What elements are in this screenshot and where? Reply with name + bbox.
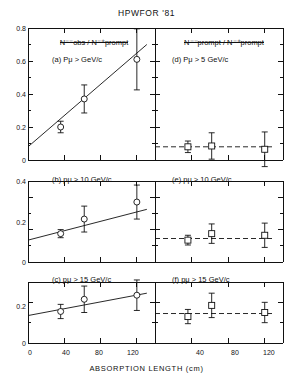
ratio-right-text: N⁻⁻prompt / N⁻⁺prompt <box>184 42 264 43</box>
xtick-right-40: 40 <box>196 349 204 356</box>
ratio-label-left: N⁻⁻obs / N⁻⁺prompt <box>44 38 144 47</box>
xtick-right-120: 120 <box>263 349 275 356</box>
x-axis-label: ABSORPTION LENGTH (cm) <box>0 364 293 373</box>
ytick-a-0.8: 0.8 <box>2 25 26 32</box>
ytick-a-0: 0 <box>2 157 26 164</box>
panel-label-a: (a) Pμ > GeV/c <box>52 55 102 64</box>
panel-label-e: (e) pμ > 10 GeV/c <box>172 175 232 184</box>
ratio-left-text: N⁻⁻obs / N⁻⁺prompt <box>60 42 129 43</box>
ytick-c-0.2: 0.2 <box>2 303 26 310</box>
xtick-left-120: 120 <box>127 349 139 356</box>
panel-label-d: (d) Pμ > 5 GeV/c <box>172 55 228 64</box>
ytick-b-0.4: 0.4 <box>2 178 26 185</box>
panel-label-c: (c) pμ > 15 GeV/c <box>52 275 111 284</box>
ytick-b-0.2: 0.2 <box>2 219 26 226</box>
ratio-label-right: N⁻⁻prompt / N⁻⁺prompt <box>168 38 280 47</box>
panel-label-f: (f) pμ > 15 GeV/c <box>172 275 229 284</box>
xtick-left-40: 40 <box>62 349 70 356</box>
ytick-a-0.2: 0.2 <box>2 124 26 131</box>
xtick-left-0: 0 <box>28 349 32 356</box>
plot-canvas <box>0 0 293 386</box>
xtick-left-80: 80 <box>95 349 103 356</box>
panel-label-b: (b) pμ > 10 GeV/c <box>52 175 112 184</box>
ytick-a-0.6: 0.6 <box>2 58 26 65</box>
ytick-b-0: 0 <box>2 259 26 266</box>
xtick-right-80: 80 <box>231 349 239 356</box>
ytick-c-0: 0 <box>2 340 26 347</box>
figure: HPWFOR '81 0.8 0.6 0.4 0.2 0 0.4 0.2 0 0… <box>0 0 293 386</box>
ytick-a-0.4: 0.4 <box>2 91 26 98</box>
